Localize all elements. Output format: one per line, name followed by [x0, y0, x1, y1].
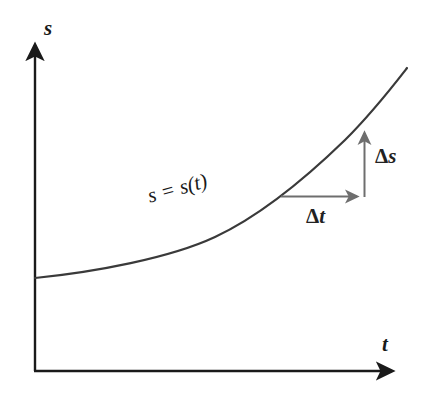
delta-t-symbol: Δ: [306, 204, 319, 228]
graph-svg: [0, 0, 424, 399]
y-axis-label: s: [44, 18, 52, 39]
delta-s-symbol: Δ: [375, 144, 388, 168]
delta-s-variable: s: [388, 144, 396, 168]
x-axis-label: t: [382, 334, 388, 355]
curve-s-of-t: [35, 68, 407, 278]
delta-t-label: Δt: [306, 206, 325, 227]
delta-s-label: Δs: [375, 146, 396, 167]
figure-canvas: s t s = s(t) Δs Δt: [0, 0, 424, 399]
delta-t-variable: t: [319, 204, 325, 228]
